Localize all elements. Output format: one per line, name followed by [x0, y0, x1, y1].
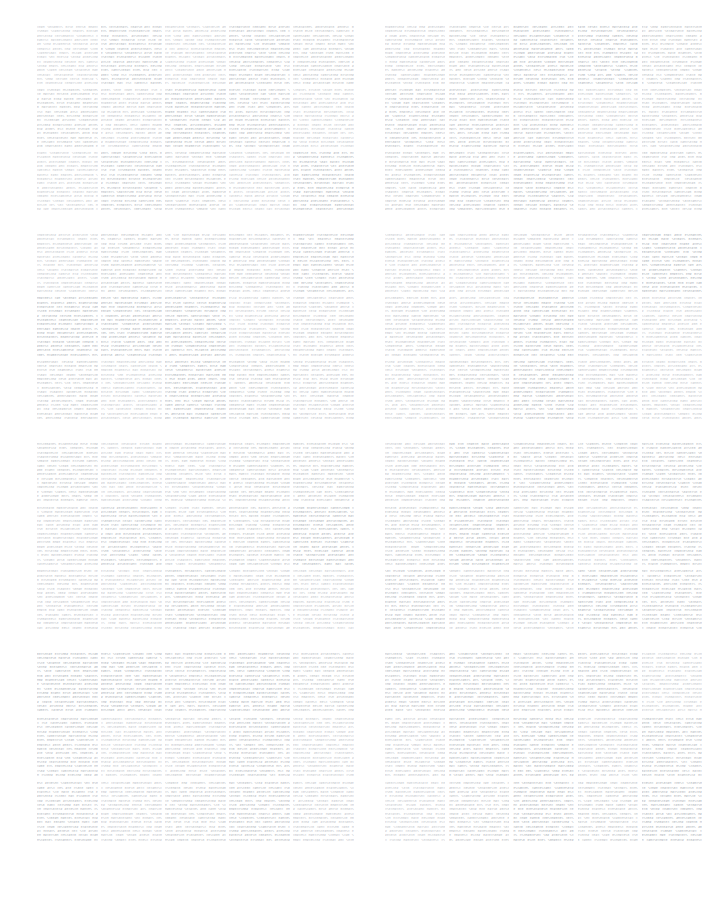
micro-text-body: XE#M %MX#BEX% BX%E EMX%B BM#EXX%MB#X %X#…: [37, 25, 98, 84]
micro-text-cell: E%X BXM%X#EXB #X%BXEM#X% X#XM%X#BX M#BXE…: [293, 652, 354, 713]
micro-text-cell: X%BXM#X MB#XEB%XM# #MX%XEB# M#EXX%MB#XE …: [101, 360, 162, 419]
micro-text-cell: #EXX%MB#X B%XE#MXB%X X#BEX%MX#EB XB#XM #…: [165, 442, 226, 502]
content-panel-7: BEX%MX#E EXX%MB# MXE#XBX% M%X#B XB%XM#XE…: [37, 652, 354, 842]
micro-text-cell: X%BX E%BX#MXE%X# M#BXE%MX# X#EB MX%XEB#X…: [165, 88, 226, 147]
micro-text-body: XE#X X%MXE#X M%XE#BXM% %XEB#XM%XE M#X%BX…: [37, 88, 98, 147]
micro-text-cell: XB%XE#MXB XM%BX#XE EX%BM BX#MXE% X#BEX% …: [101, 442, 162, 502]
micro-text-body: XEM %EXM#XEX%BX EXB %EXM#XEX XE%X#BXM% X…: [513, 781, 573, 842]
micro-text-cell: B%MX# BEX%MX EBX%XM X%XEBX# M#X EX% B%X#…: [513, 88, 573, 147]
micro-text-body: X%XM#B BX#MX%EXB#X X#EBX%XM#B XEX%MB#XEX…: [293, 506, 354, 566]
micro-text-cell: XEM %EXM#XEX%BX EXB %EXM#XEX XE%X#BXM% X…: [513, 781, 573, 842]
micro-text-body: %XE %X#BXM% B%MXE %XM#EXM XB#X BX% X%BM#…: [578, 442, 638, 502]
micro-text-body: X%MX#EBX% MX%B#XEX% X#EXB%XM#XE #EXM% XM…: [165, 569, 226, 629]
micro-text-cell: %XM#BX BXEX#MX%XEB %MXE#X %XM#EX M#XB%XE…: [229, 569, 290, 629]
micro-text-cell: E%X#BXM X%XEB#XM%X EB%XM# B%XM#EXB%M XBE…: [642, 652, 702, 713]
micro-text-cell: BX#MX%EX XB%XE#MX #X%XEBX #EXM%BX#XEM #X…: [513, 25, 573, 84]
micro-text-body: M#X%XB EXB%MX# B#XM%XE#BXM EX%B X%B#XE E…: [642, 442, 702, 502]
micro-text-body: XB%XE#MXB XM%BX#XE EX%BM BX#MXE% X#BEX% …: [101, 442, 162, 502]
micro-text-cell: X%XM#B BX#MX%EXB#X X#EBX%XM#B XEX%MB#XEX…: [293, 506, 354, 566]
micro-text-body: BX%X #BXM%EX B%XE# %BM#EXX%M XM# X%MB %B…: [165, 360, 226, 419]
micro-text-body: M#X MX%XEB#XM%X #XM%X#BX%E #X%X X#XBE%X …: [642, 569, 702, 629]
micro-text-body: #XE% #EXB%XM# XM%X#EXB%XM XB# XE%B #X%XE…: [449, 296, 509, 355]
micro-text-cell: %BM#EX X#EMX%B#XEX B#XEX%M XM#X%XE %BX#M…: [449, 569, 509, 629]
micro-text-cell: XM%XE#B XB%XM#X E#X%BXEM#X% #XEX XB%X#EM…: [293, 569, 354, 629]
micro-text-body: MX#BEX%MX#E X%EXB#XM%XE EB%XM#EX MB# %EX…: [293, 233, 354, 292]
micro-text-cell: EX%BXM# %EXB#X MXE XM#X%XEBX# X%XM#BX X#…: [101, 569, 162, 629]
micro-text-body: BX%MXE#XB M#BXE%MX#XB #BX XE#XBX %XM#XE …: [37, 506, 98, 566]
micro-text-cell: %XM#EX X%XEB X%BX E#MXB% XM%EX EX#XM% B%…: [165, 506, 226, 566]
micro-text-cell: #XEB% %MXE XE#M EX%BM#E X%M XM%X BXE%MX#…: [101, 88, 162, 147]
micro-text-cell: XE#X X%MXE#X M%XE#BXM% %XEB#XM%XE M#X%BX…: [37, 88, 98, 147]
micro-text-body: BX%XM#BX XEX M%X#BX% EBX#MX% E%MX#XBE%XM…: [229, 233, 290, 292]
micro-text-cell: EXB%MX #XE%BX#M XEB%X %XE#BX%MXE %XM#E X…: [642, 781, 702, 842]
micro-text-body: #BX%MXE#X EB%XM#EXB M%X#EX #BXM% XE#BX%X…: [101, 233, 162, 292]
micro-text-body: MB#XEB%X X#E %BXEM#X #X%XEBX#MX BX#MX% E…: [37, 296, 98, 355]
micro-text-cell: X#B XM#X%XEBX# #EMX #MX%E E#BXM% X%EXB#X…: [449, 233, 509, 292]
micro-text-cell: X#BEX%MX M#X E%XM#E M#X E%X#B XE%X# %X#B…: [513, 506, 573, 566]
micro-text-body: MX%EXB# X#MXE%X MXE# M%X XM%X#EXB %MX#BE…: [513, 717, 573, 778]
micro-text-cell: E#BX% XM%X#E X#BX%EXM#XE B%XM#EXB%MX #MX…: [293, 781, 354, 842]
micro-text-body: #MX% XE%MX# XBE#MX%EXB# M#X%BXEX#MX E#X%…: [165, 151, 226, 210]
content-panel-6: XE%MX#XBE #BX XE%X#B #BX%MXE#X XEX% XEX …: [385, 442, 702, 629]
micro-text-cell: X#EMX%B#XEX XEX%BXM#X%X MXE#BX%X #MX%EXB…: [101, 717, 162, 778]
micro-text-body: EX# %BM# E#BX%MXE#XB M#XEX%BXM#X #MX%XEB…: [642, 25, 702, 84]
micro-text-body: EX#MX %XE#BX%MXE %XEM#XB%XE MXE%X#BXM M#…: [37, 151, 98, 210]
micro-text-body: BXM%EX#XB%M XB#X%MXE# M#X%XBE#MX X%E X#X…: [37, 717, 98, 778]
micro-text-cell: EX#XM%X#BX% X%X #BX%MXE#X MB#XE #XEX%BM#…: [513, 151, 573, 210]
micro-text-cell: MX%EXB #XB%MXE#X X%MB#XEB%X M#EXB%MX# MX…: [385, 506, 445, 566]
micro-text-cell: #BXE% #XM%X#BX%E MX%EXB#X EXB#XM%XE %XBE…: [578, 652, 638, 713]
micro-text-cell: #BX%MXE#X EB%XM#EXB M%X#EX #BXM% XE#BX%X…: [101, 233, 162, 292]
micro-text-body: #X%XBE#MX% EBX%XM BXEM MX% #XB X%MXE#X #…: [385, 296, 445, 355]
micro-text-cell: EXM%BX#X XB%XE#MXB %BM# XM#EXB%MX MX#XBE…: [642, 506, 702, 566]
micro-text-body: #MX%EX X%XBE#M B#X EX%MB#XEX%B XEX%BM #E…: [385, 88, 445, 147]
micro-text-cell: E%X# B%X#EMX%B# X#BEX E#BXM% %MXE#XBX EX…: [229, 296, 290, 355]
micro-text-body: EX%BXM# %EXB#X MXE XM#X%XEBX# X%XM#BX X#…: [101, 569, 162, 629]
micro-text-cell: EX%BXM XE#BX BXM#X%XEB XM#X% B#XEX% XM#X…: [642, 360, 702, 419]
micro-text-body: %BM#EX X#EMX%B#XEX B#XEX%M XM#X%XE %BX#M…: [449, 569, 509, 629]
micro-text-body: E%MX#XBE EXM#X %BXEM#X% M#E X%XEM#XB% XE…: [385, 151, 445, 210]
micro-text-cell: MX%B#XEX%M X%BXEM#X%X %X#EMX%B %X# EX%BM…: [578, 233, 638, 292]
micro-text-cell: BE#MX%EXB#X X%MX#EBX%XM B%MX XE#XBX%EXM …: [37, 569, 98, 629]
micro-text-body: XE%MX#XBE #BX XE%X#B #BX%MXE#X XEX% XEX …: [385, 442, 445, 502]
micro-text-cell: #XE% #EXB%XM# XM%X#EXB%XM XB# XE%B #X%XE…: [449, 296, 509, 355]
micro-text-body: EX#XM%X#BX% X%X #BX%MXE#X MB#XE #XEX%BM#…: [513, 151, 573, 210]
micro-text-cell: XB# MB#XEB%XM#E XM#X XE#BX%MXE XEX%BM#EX…: [578, 781, 638, 842]
micro-text-body: EB%XM %BX M#EXB%MX# E#BX% X%XBE#MX%EX M#…: [101, 296, 162, 355]
micro-text-cell: MX#BEX%MX#E X%EXB#XM%XE EB%XM#EX MB# %EX…: [293, 233, 354, 292]
micro-text-body: M#BXE% EXM%BX#XEM M%XE#B E%X %BXEX# EX# …: [293, 442, 354, 502]
micro-text-cell: M#EX B#X MX#EBX%XM# BXM#X%XEB BXM%X#EXB%…: [165, 652, 226, 713]
micro-text-cell: X%BXE #MX%XEB#XM% XEBX #XE% #BXM%E X%BXM…: [578, 360, 638, 419]
micro-text-cell: E%MX#XBE EXM#X %BXEM#X% M#E X%XEM#XB% XE…: [385, 151, 445, 210]
micro-text-cell: %XM#XE% EX%BXM %BX#M EXM% B%MXE#X X%XEM#…: [293, 88, 354, 147]
micro-text-body: E%X#BXM X%XEB#XM%X EB%XM# B%XM#EXB%M XBE…: [642, 652, 702, 713]
micro-text-body: XEX%MB XB#XM%XE# X#E XEX#XM% X#EBX%X XB%…: [449, 781, 509, 842]
micro-text-body: #BXE% #XM%X#BX%E MX%EXB#X EXB#XM%XE %XBE…: [578, 652, 638, 713]
micro-text-body: X#XB%MXE#X BX%EXM#XEX% BX% XE%X#BXM%EX B…: [449, 360, 509, 419]
micro-text-body: MXE#X%B XE#X% E%XM#EX MB#XEB%XM# XEX%BXM…: [229, 442, 290, 502]
micro-text-body: B%X #EXB%MX %X#BXM%EX#X %MX B%MX#BE #X%X…: [37, 781, 98, 842]
micro-text-body: %MXE# E%X#BXM%EX# B%XM X%B#XEX%MB# MB#X …: [293, 360, 354, 419]
micro-text-body: EXM%BX#X XB%XE#MXB %BM# XM#EXB%MX MX#XBE…: [642, 506, 702, 566]
micro-text-cell: BEX%MX#E EXX%MB# MXE#XBX% M%X#B XB%XM#XE…: [37, 652, 98, 713]
micro-text-cell: #X%XBE#MX% EBX%XM BXEM MX% #XB X%MXE#X #…: [385, 296, 445, 355]
micro-text-cell: XM%X XEX#XM%X#B M#BXE%MX#X #BX%X XE%BX#M…: [101, 781, 162, 842]
micro-text-body: XM%BX#XEM% #BXE%MX#XB #MXB%X BX%EXM B%XE…: [293, 25, 354, 84]
micro-text-cell: M#X MX%XEB#XM%X #XM%X#BX%E #X%X X#XBE%X …: [642, 569, 702, 629]
micro-text-body: #EXX%MB#X B%XE#MXB%X X#BEX%MX#EB XB#XM #…: [165, 442, 226, 502]
micro-text-body: #XBE%XM X%MXE#XBX%E XE#X%BXEM# E#BX%X B#…: [578, 717, 638, 778]
micro-text-cell: %XE %X#BXM% B%MXE %XM#EXM XB#X BX% X%BM#…: [578, 442, 638, 502]
micro-text-body: BEX%MX#E EXX%MB# MXE#XBX% M%X#B XB%XM#XE…: [37, 652, 98, 713]
micro-text-cell: #EXM%BX#XE XB% B#XEX% #MX%EXB #MXE% XE#X…: [229, 506, 290, 566]
micro-text-body: E#XB XE%BX BXM%X M#X%BXEX# #XEB%XM# MX%E…: [578, 25, 638, 84]
micro-text-body: X%BXE #MX%XEB#XM% XEBX #XE% #BXM%E X%BXM…: [578, 360, 638, 419]
micro-text-cell: E#X%BXEM #XEB%XM#EX XEM#XB%XE BEX% XM%BX…: [449, 717, 509, 778]
micro-text-cell: XB#X%MXE#B EM#X #BXE E%XM#EXM%BX M%X#B M…: [642, 233, 702, 292]
micro-text-body: %BX M%XE#B %XE#MXB% #XM%XE#B MXE#XBX%E X…: [385, 569, 445, 629]
micro-text-cell: BX%X #BXM%EX B%XE# %BM#EXX%M XM# X%MB %B…: [165, 360, 226, 419]
micro-text-body: MXE%X %X#EXB%XM %XE#BX XEM %XM#BX X%X XX…: [101, 652, 162, 713]
micro-text-body: X#MX %BXM XEX#XM%X#B #XBX%EXM#X MXE%X#BX…: [578, 569, 638, 629]
micro-text-cell: X%MB#XEX%BM M%EX XM%X EX%B M#E #MXB XB%M…: [642, 717, 702, 778]
micro-text-body: XM%X XEX#XM%X#B M#BXE%MX#X #BX%X XE%BX#M…: [101, 781, 162, 842]
micro-text-body: M#EX B#X MX#EBX%XM# BXM#X%XEB BXM%X#EXB%…: [165, 652, 226, 713]
micro-text-cell: M#X%XB EXB%MX# B#XM%XE#BXM EX%B X%B#XE E…: [642, 442, 702, 502]
